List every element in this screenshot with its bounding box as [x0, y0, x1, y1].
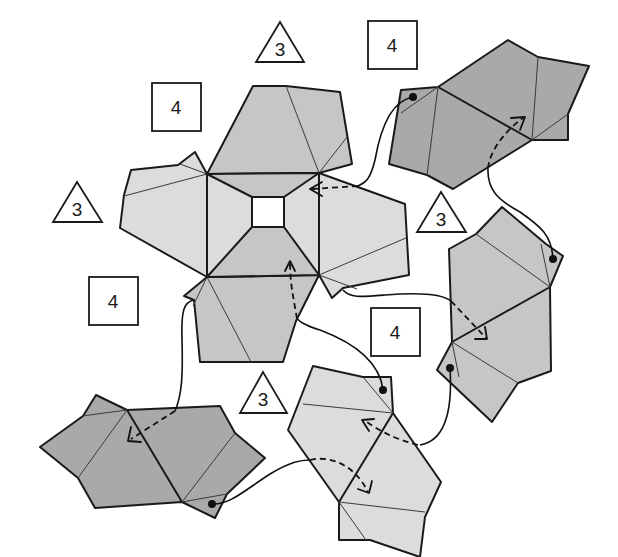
- central-bottom-flap: [184, 275, 319, 362]
- center-hole: [252, 197, 284, 227]
- svg-text:3: 3: [258, 389, 269, 410]
- label-sq-middle: 4: [371, 308, 420, 356]
- svg-text:3: 3: [72, 199, 83, 220]
- polyhedron-net-diagram: 3 4 4 3 3 4 4 3: [0, 0, 618, 557]
- bottom-center-piece: [288, 366, 441, 557]
- svg-text:3: 3: [436, 209, 447, 230]
- svg-text:4: 4: [390, 322, 401, 343]
- label-tri-bottom: 3: [240, 372, 287, 413]
- central-top-flap: [207, 86, 352, 174]
- central-right-flap: [319, 173, 409, 298]
- svg-text:4: 4: [171, 97, 182, 118]
- svg-text:4: 4: [387, 35, 398, 56]
- label-sq-top-right: 4: [368, 21, 417, 69]
- svg-text:4: 4: [108, 291, 119, 312]
- label-tri-top: 3: [256, 22, 304, 62]
- svg-text:3: 3: [275, 39, 286, 60]
- right-piece: [437, 207, 563, 422]
- label-sq-top-left: 4: [152, 83, 201, 131]
- label-sq-left: 4: [89, 277, 138, 325]
- central-left-flap: [120, 152, 207, 277]
- label-tri-left: 3: [53, 182, 102, 222]
- label-tri-right: 3: [417, 192, 466, 232]
